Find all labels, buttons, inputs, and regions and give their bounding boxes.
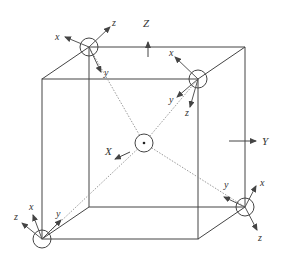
svg-text:x: x <box>28 201 34 212</box>
frame-back-bottom-right: y x z <box>223 177 265 243</box>
global-x-label: X <box>104 145 113 157</box>
svg-text:z: z <box>184 107 189 118</box>
svg-text:z: z <box>13 211 18 222</box>
frame-front-bottom-left: z x y <box>13 201 61 248</box>
center-frame <box>135 134 153 152</box>
svg-text:z: z <box>111 17 116 28</box>
global-y-label: Y <box>262 135 270 147</box>
back-face-edges <box>89 47 245 207</box>
center-dot <box>143 142 146 145</box>
global-z-label: Z <box>143 17 150 29</box>
svg-text:y: y <box>168 94 174 105</box>
svg-text:x: x <box>168 47 174 58</box>
svg-text:x: x <box>259 177 265 188</box>
cube-diagram: Z Y X x z y x y z y x z <box>0 0 288 264</box>
svg-text:y: y <box>223 179 229 190</box>
svg-text:x: x <box>54 31 60 42</box>
svg-text:y: y <box>103 67 109 78</box>
svg-text:z: z <box>257 232 262 243</box>
svg-text:y: y <box>55 208 61 219</box>
front-face <box>42 79 198 239</box>
